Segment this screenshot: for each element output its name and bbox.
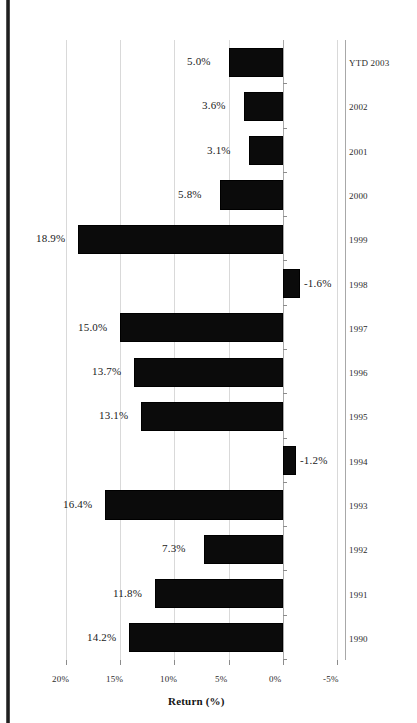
bar-value-label: 18.9% [36,232,65,244]
category-axis-label: 1992 [349,545,368,555]
bar[interactable] [129,623,283,652]
category-axis-label: 2001 [349,147,368,157]
category-axis-label: 1998 [349,280,368,290]
category-label-separator [345,40,346,660]
category-axis-tick [283,349,287,350]
category-axis-tick [283,216,287,217]
bar-value-label: 13.7% [92,365,121,377]
bar[interactable] [220,180,283,209]
bar-value-label: -1.2% [300,454,328,466]
value-axis-tick [120,660,121,665]
bar[interactable] [155,579,283,608]
value-axis-tick-label: 15% [106,674,123,684]
bar[interactable] [204,535,283,564]
value-axis-tick-label: 10% [160,674,177,684]
value-axis-tick [174,660,175,665]
category-axis-tick [283,659,287,660]
category-axis-label: 2002 [349,102,368,112]
bar-value-label: 13.1% [99,409,128,421]
bar-value-label: 3.6% [202,99,226,111]
bar-value-label: 15.0% [78,321,107,333]
bar[interactable] [249,136,283,165]
gridline [174,40,175,660]
bar-value-label: 11.8% [113,587,142,599]
bar[interactable] [244,92,283,121]
gridline [66,40,67,660]
category-axis-label: 2000 [349,191,368,201]
category-axis-label: 1993 [349,501,368,511]
category-axis-tick [283,438,287,439]
value-axis-tick-label: 5% [215,674,227,684]
category-axis-tick [283,260,287,261]
category-axis-tick [283,83,287,84]
value-axis-tick [337,660,338,665]
category-axis-label: 1999 [349,235,368,245]
bar-value-label: -1.6% [304,277,332,289]
bar-chart: 20%15%10%5%0%-5%14.2%199011.8%19917.3%19… [0,0,417,723]
category-axis-label: 1995 [349,412,368,422]
category-axis-line [283,40,284,660]
value-axis-tick-label: 0% [269,674,281,684]
bar[interactable] [141,402,283,431]
category-axis-label: YTD 2003 [349,58,389,68]
value-axis-tick [283,660,284,665]
category-axis-label: 1990 [349,634,368,644]
category-axis-tick [283,570,287,571]
bar-value-label: 3.1% [207,144,231,156]
category-axis-tick [283,172,287,173]
category-axis-tick [283,128,287,129]
value-axis-tick-label: 20% [52,674,69,684]
value-axis-title: Return (%) [168,695,225,707]
bar-value-label: 5.8% [178,188,202,200]
category-axis-tick [283,526,287,527]
bar-value-label: 5.0% [187,55,211,67]
gridline [229,40,230,660]
bar-value-label: 14.2% [87,631,116,643]
bar[interactable] [78,225,283,254]
bar-value-label: 16.4% [63,498,92,510]
bar[interactable] [134,358,283,387]
bar-value-label: 7.3% [162,542,186,554]
plot-area: 20%15%10%5%0%-5%14.2%199011.8%19917.3%19… [66,40,337,660]
category-axis-tick [283,393,287,394]
category-axis-label: 1991 [349,590,368,600]
bar[interactable] [283,446,296,475]
category-axis-tick [283,615,287,616]
category-axis-tick [283,305,287,306]
bar[interactable] [105,490,283,519]
value-axis-tick-label: -5% [323,674,339,684]
bar[interactable] [283,269,300,298]
category-axis-label: 1996 [349,368,368,378]
rotated-figure-container: 20%15%10%5%0%-5%14.2%199011.8%19917.3%19… [0,0,417,723]
category-axis-label: 1997 [349,324,368,334]
gridline [120,40,121,660]
category-axis-label: 1994 [349,457,368,467]
value-axis-tick [66,660,67,665]
bar[interactable] [229,48,283,77]
value-axis-tick [229,660,230,665]
bar[interactable] [120,313,283,342]
category-axis-tick [283,482,287,483]
gridline [337,40,338,660]
